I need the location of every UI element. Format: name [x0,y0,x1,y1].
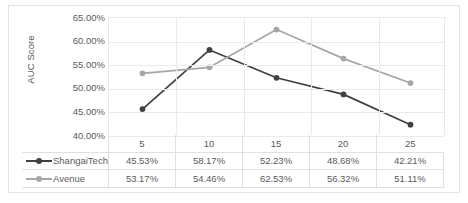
legend-label: Avenue [53,173,85,184]
series-data-point [274,27,280,33]
table-value-cell: 51.11% [377,170,444,188]
horizontal-gridline [109,65,444,66]
x-axis-category-label: 25 [377,135,444,152]
y-axis-title: AUC Score [25,20,36,100]
table-value-cell: 53.17% [109,170,176,188]
legend-marker-icon [26,156,52,165]
vertical-gridline [379,18,380,135]
y-axis-tick-labels: 65.00%60.00%55.00%50.00%45.00%40.00% [39,17,105,135]
table-value-cell: 48.68% [310,152,377,170]
vertical-gridline [244,18,245,135]
x-axis-category-label: 15 [243,135,310,152]
series-data-point [341,56,347,62]
y-tick-label: 50.00% [39,82,105,93]
vertical-gridline [176,18,177,135]
legend-entry[interactable]: Avenue [22,170,109,188]
series-line [143,50,411,125]
y-tick-label: 60.00% [39,35,105,46]
table-row: Avenue53.17%54.46%62.53%56.32%51.11% [22,170,444,188]
table-value-cell: 56.32% [310,170,377,188]
table-row: ShangaiTech45.53%58.17%52.23%48.68%42.21… [22,152,444,170]
series-data-point [207,47,213,53]
table-corner-cell [22,135,109,152]
plot-series-svg [109,18,444,135]
series-data-point [140,106,146,112]
table-value-cell: 58.17% [176,152,243,170]
series-data-point [408,122,414,128]
table-value-cell: 62.53% [243,170,310,188]
legend-entry[interactable]: ShangaiTech [22,152,109,170]
y-tick-label: 55.00% [39,59,105,70]
chart-frame: AUC Score 65.00%60.00%55.00%50.00%45.00%… [8,5,460,193]
series-data-point [140,70,146,76]
legend-marker-icon [26,174,52,183]
table-value-cell: 54.46% [176,170,243,188]
horizontal-gridline [109,89,444,90]
y-tick-label: 45.00% [39,106,105,117]
horizontal-gridline [109,42,444,43]
x-axis-category-label: 20 [310,135,377,152]
plot-area [108,17,445,135]
horizontal-gridline [109,112,444,113]
table-value-cell: 52.23% [243,152,310,170]
series-data-point [408,80,414,86]
table-value-cell: 42.21% [377,152,444,170]
series-data-point [274,75,280,81]
table-header-row: 510152025 [22,135,444,152]
table-value-cell: 45.53% [109,152,176,170]
x-axis-category-label: 5 [109,135,176,152]
series-data-point [341,92,347,98]
x-axis-category-label: 10 [176,135,243,152]
vertical-gridline [311,18,312,135]
data-table: 510152025ShangaiTech45.53%58.17%52.23%48… [22,135,444,188]
legend-label: ShangaiTech [53,155,108,166]
y-tick-label: 65.00% [39,12,105,23]
